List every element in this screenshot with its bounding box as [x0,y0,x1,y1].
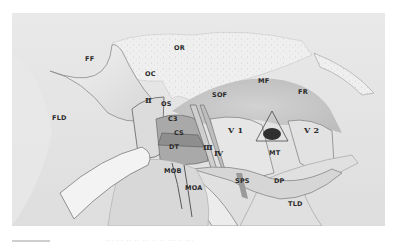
label-nerve-iii: Ⅲ [203,143,213,151]
label-nerve-iv: Ⅳ [214,149,223,157]
label-c3: C3 [168,116,178,123]
label-fld: FLD [52,115,67,122]
label-fr: FR [298,89,308,96]
label-optic-nerve-ii: Ⅱ [145,96,152,104]
label-oc: OC [145,71,156,78]
anatomical-illustration: FF OR OC FLD Ⅱ OS C3 CS DT Ⅲ Ⅳ SOF MF FR… [12,13,385,226]
label-dp: DP [274,178,285,185]
caption-rule [12,240,50,242]
label-sof: SOF [212,92,227,99]
label-ff: FF [85,56,94,63]
label-v2: V 2 [304,126,319,134]
label-tld: TLD [288,201,303,208]
label-sps: SPS [235,178,250,185]
label-cs: CS [174,130,184,137]
label-mf: MF [258,78,269,85]
label-v1: V 1 [228,126,243,134]
label-mob: MOB [164,168,182,175]
label-mt: MT [269,150,280,157]
illustration-drawing [12,13,385,226]
figure-caption: ··· ··· ·· ·· ··· ·· ·· ··· ·· ··· [106,237,194,243]
label-or: OR [174,45,185,52]
label-moa: MOA [185,185,202,192]
label-os: OS [161,101,172,108]
label-dt: DT [169,144,179,151]
